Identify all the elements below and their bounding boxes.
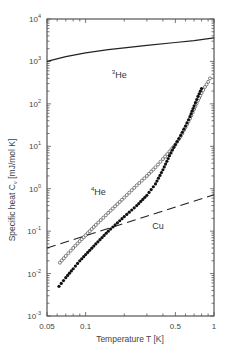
specific-heat-chart: 0.050.10.5110-310-210-1100101102103104 3…	[0, 0, 228, 364]
y-tick-label: 100	[29, 183, 41, 194]
y-tick-label: 104	[29, 13, 41, 24]
tick-labels: 0.050.10.5110-310-210-1100101102103104	[27, 13, 217, 331]
y-axis-title: Specific heat Cv [mJ/mol K]	[7, 139, 18, 242]
series-filled-dots-markers	[57, 87, 203, 288]
y-tick-label: 10-3	[27, 310, 41, 321]
annotation-he: 3He	[112, 69, 127, 80]
x-tick-label: 0.1	[80, 322, 92, 331]
y-tick-label: 10-1	[27, 225, 41, 236]
series-cu-line	[47, 195, 214, 248]
x-axis-title: Temperature T [K]	[96, 334, 164, 344]
y-tick-label: 10-2	[27, 268, 41, 279]
annotation-cu: Cu	[152, 221, 164, 231]
y-tick-label: 102	[29, 98, 41, 109]
annotation-he: 4He	[91, 186, 106, 197]
series-4he-markers	[58, 77, 211, 264]
data-series	[47, 38, 214, 288]
y-tick-label: 101	[29, 140, 41, 151]
x-tick-label: 1	[212, 322, 217, 331]
y-tick-label: 103	[29, 55, 41, 66]
x-tick-label: 0.5	[170, 322, 182, 331]
series-3he-line	[47, 38, 214, 62]
x-tick-label: 0.05	[39, 322, 55, 331]
annotations: 3He4HeCu	[91, 69, 164, 231]
